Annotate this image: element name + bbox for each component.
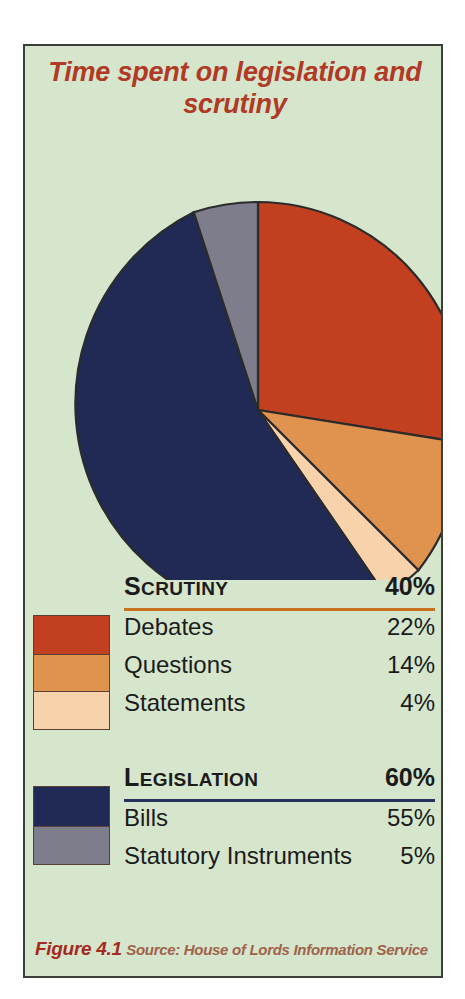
table-row: Bills 55% <box>124 804 435 842</box>
table-row: Questions 14% <box>124 651 435 689</box>
page-title: Time spent on legislation and scrutiny <box>37 56 433 120</box>
legend-swatch-bills <box>34 787 109 826</box>
group-value-legislation: 60% <box>385 763 435 792</box>
row-value-bills: 55% <box>387 804 435 832</box>
legend-swatches-legislation <box>33 786 110 865</box>
figure-caption: Figure 4.1 Source: House of Lords Inform… <box>35 938 435 960</box>
legend-swatch-statutory-instruments <box>34 826 109 865</box>
figure-source: Source: House of Lords Information Servi… <box>126 941 428 958</box>
legend-swatch-statements <box>34 691 109 729</box>
table-row: Debates 22% <box>124 613 435 651</box>
table-row: Statutory Instruments 5% <box>124 842 435 880</box>
pie-chart-svg <box>23 160 443 580</box>
legend-table: SCRUTINY 40% Debates 22% Questions 14% S… <box>124 572 435 880</box>
group-value-scrutiny: 40% <box>385 572 435 601</box>
group-spacer <box>124 727 435 763</box>
row-label-questions: Questions <box>124 651 232 679</box>
legend-swatch-questions <box>34 654 109 692</box>
row-label-debates: Debates <box>124 613 213 641</box>
figure-root: Time spent on legislation and scrutiny <box>0 0 465 999</box>
divider-legislation <box>124 799 435 802</box>
row-value-debates: 22% <box>387 613 435 641</box>
pie-slice-debates <box>258 202 443 443</box>
pie-slices <box>75 202 443 580</box>
divider-scrutiny <box>124 608 435 611</box>
legend-swatches-scrutiny <box>33 615 110 730</box>
row-value-statements: 4% <box>400 689 435 717</box>
group-label-scrutiny: SCRUTINY <box>124 572 228 601</box>
pie-chart <box>23 160 443 580</box>
row-value-statutory-instruments: 5% <box>400 842 435 870</box>
row-value-questions: 14% <box>387 651 435 679</box>
group-label-legislation: LEGISLATION <box>124 763 258 792</box>
table-header-legislation: LEGISLATION 60% <box>124 763 435 797</box>
table-header-scrutiny: SCRUTINY 40% <box>124 572 435 606</box>
figure-number: Figure 4.1 <box>35 938 122 959</box>
row-label-statutory-instruments: Statutory Instruments <box>124 842 352 870</box>
row-label-statements: Statements <box>124 689 245 717</box>
figure-panel: Time spent on legislation and scrutiny <box>23 44 443 978</box>
legend-swatch-debates <box>34 616 109 654</box>
table-row: Statements 4% <box>124 689 435 727</box>
row-label-bills: Bills <box>124 804 168 832</box>
